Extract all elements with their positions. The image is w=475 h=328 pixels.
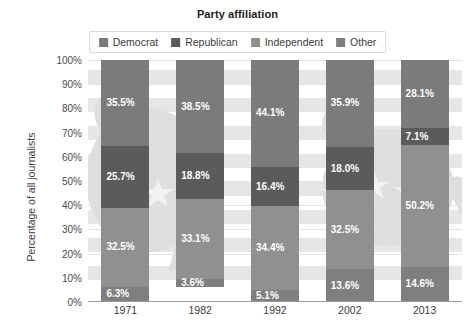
bar-segment-label: 5.1% bbox=[251, 291, 279, 301]
bar-stack[interactable]: 35.9%18.0%32.5%13.6% bbox=[326, 60, 374, 302]
bar-segment-label: 44.1% bbox=[251, 108, 284, 118]
legend-item-republican[interactable]: Republican bbox=[171, 36, 238, 48]
y-axis-tick-label: 30% bbox=[62, 224, 82, 235]
bar-segment[interactable]: 7.1% bbox=[401, 128, 449, 145]
bar-segment[interactable]: 33.1% bbox=[176, 199, 224, 279]
x-axis-tick-label: 1982 bbox=[163, 304, 238, 316]
bar-segment-label: 34.4% bbox=[251, 243, 284, 253]
bar-segment-label: 6.3% bbox=[101, 289, 129, 299]
y-axis-title: Percentage of all journalists bbox=[25, 92, 37, 302]
x-axis-tick-label: 1971 bbox=[88, 304, 163, 316]
bar-segment[interactable]: 32.5% bbox=[101, 208, 149, 287]
plot-area: 35.5%25.7%32.5%6.3%38.5%18.8%33.1%3.6%44… bbox=[88, 60, 462, 302]
x-axis-tick-label: 2013 bbox=[387, 304, 462, 316]
bar-segment-label: 14.6% bbox=[401, 279, 434, 289]
legend-label: Other bbox=[350, 36, 376, 48]
bar-segment-label: 32.5% bbox=[101, 242, 134, 252]
bar-segment[interactable]: 50.2% bbox=[401, 145, 449, 266]
y-axis: Percentage of all journalists 0%10%20%30… bbox=[0, 60, 88, 302]
legend-swatch-icon bbox=[99, 38, 108, 47]
legend-label: Democrat bbox=[113, 36, 159, 48]
bar-stack[interactable]: 38.5%18.8%33.1%3.6% bbox=[176, 60, 224, 302]
bar-segment-label: 18.0% bbox=[326, 164, 359, 174]
legend-item-independent[interactable]: Independent bbox=[251, 36, 323, 48]
bar-segment[interactable]: 3.6% bbox=[176, 279, 224, 288]
bar-segment[interactable]: 18.0% bbox=[326, 147, 374, 191]
bar-segment-label: 3.6% bbox=[176, 278, 204, 288]
bar-series-group: 35.5%25.7%32.5%6.3%38.5%18.8%33.1%3.6%44… bbox=[88, 60, 462, 302]
x-axis-line bbox=[88, 301, 462, 302]
bar-segment[interactable]: 13.6% bbox=[326, 269, 374, 302]
bar-stack[interactable]: 28.1%7.1%50.2%14.6% bbox=[401, 60, 449, 302]
legend-swatch-icon bbox=[336, 38, 345, 47]
bar-segment-label: 50.2% bbox=[401, 201, 434, 211]
bar-stack[interactable]: 44.1%16.4%34.4%5.1% bbox=[251, 60, 299, 302]
bar-segment-label: 35.9% bbox=[326, 98, 359, 108]
chart-container: Party affiliation Democrat Republican In… bbox=[0, 0, 475, 328]
bar-segment[interactable]: 34.4% bbox=[251, 206, 299, 289]
x-axis: 19711982199220022013 bbox=[88, 304, 462, 316]
bar-segment[interactable]: 28.1% bbox=[401, 60, 449, 128]
y-axis-tick-label: 60% bbox=[62, 151, 82, 162]
bar-segment-label: 28.1% bbox=[401, 89, 434, 99]
bar-segment[interactable]: 18.8% bbox=[176, 153, 224, 198]
bar-segment-label: 32.5% bbox=[326, 225, 359, 235]
y-axis-tick-label: 20% bbox=[62, 248, 82, 259]
legend-item-democrat[interactable]: Democrat bbox=[99, 36, 159, 48]
legend-item-other[interactable]: Other bbox=[336, 36, 376, 48]
legend-swatch-icon bbox=[171, 38, 180, 47]
bar-column: 35.5%25.7%32.5%6.3% bbox=[88, 60, 163, 302]
bar-segment[interactable]: 44.1% bbox=[251, 60, 299, 167]
bar-segment[interactable]: 38.5% bbox=[176, 60, 224, 153]
bar-segment[interactable]: 16.4% bbox=[251, 167, 299, 207]
chart-title: Party affiliation bbox=[0, 8, 475, 20]
bar-segment-label: 16.4% bbox=[251, 182, 284, 192]
legend-label: Republican bbox=[185, 36, 238, 48]
x-axis-tick-label: 1992 bbox=[238, 304, 313, 316]
bar-segment-label: 33.1% bbox=[176, 234, 209, 244]
bar-segment[interactable]: 6.3% bbox=[101, 287, 149, 302]
y-axis-tick-label: 80% bbox=[62, 103, 82, 114]
bar-stack[interactable]: 35.5%25.7%32.5%6.3% bbox=[101, 60, 149, 302]
bar-segment-label: 18.8% bbox=[176, 171, 209, 181]
y-axis-tick-label: 70% bbox=[62, 127, 82, 138]
y-axis-tick-label: 40% bbox=[62, 200, 82, 211]
y-axis-tick-label: 100% bbox=[56, 55, 82, 66]
y-axis-tick-label: 90% bbox=[62, 79, 82, 90]
bar-segment[interactable]: 14.6% bbox=[401, 267, 449, 302]
bar-segment-label: 25.7% bbox=[101, 172, 134, 182]
bar-segment-label: 35.5% bbox=[101, 98, 134, 108]
bar-column: 35.9%18.0%32.5%13.6% bbox=[312, 60, 387, 302]
bar-segment[interactable]: 35.5% bbox=[101, 60, 149, 146]
bar-segment-label: 7.1% bbox=[401, 132, 429, 142]
bar-column: 38.5%18.8%33.1%3.6% bbox=[163, 60, 238, 302]
bar-segment[interactable]: 25.7% bbox=[101, 146, 149, 208]
y-axis-tick-label: 0% bbox=[68, 297, 82, 308]
legend-swatch-icon bbox=[251, 38, 260, 47]
bar-segment-label: 38.5% bbox=[176, 102, 209, 112]
x-axis-tick-label: 2002 bbox=[312, 304, 387, 316]
bar-column: 44.1%16.4%34.4%5.1% bbox=[238, 60, 313, 302]
y-axis-tick-label: 50% bbox=[62, 176, 82, 187]
legend-label: Independent bbox=[265, 36, 323, 48]
bar-column: 28.1%7.1%50.2%14.6% bbox=[387, 60, 462, 302]
bar-segment[interactable]: 35.9% bbox=[326, 60, 374, 147]
y-axis-tick-label: 10% bbox=[62, 272, 82, 283]
bar-segment[interactable]: 32.5% bbox=[326, 190, 374, 269]
bar-segment-label: 13.6% bbox=[326, 281, 359, 291]
chart-legend: Democrat Republican Independent Other bbox=[89, 31, 387, 53]
